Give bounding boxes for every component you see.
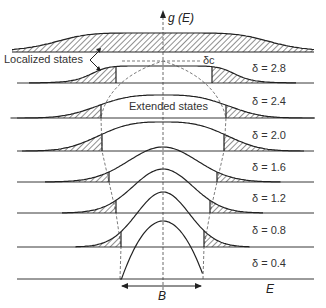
axis-label: g (E) [168,11,194,25]
dos-curve [62,169,263,213]
dos-curve [76,192,250,247]
dos-curve [120,221,203,279]
localized-pointer [90,51,99,68]
localized-tail-left [11,105,102,118]
energy-label: E [266,282,275,296]
delta-label: δ = 2.0 [252,129,286,141]
bandwidth-label: B [158,289,166,303]
critical-delta-label: δc [203,54,215,66]
delta-label: δ = 0.4 [252,257,286,269]
delta-label: δ = 2.4 [252,95,286,107]
localized-states-label: Localized states [4,53,83,65]
axis-arrow-icon [160,10,166,18]
delta-labels: δ = 2.8δ = 2.4δ = 2.0δ = 1.6δ = 1.2δ = 0… [252,62,286,270]
delta-label: δ = 1.6 [252,161,286,173]
delta-label: δ = 0.8 [252,224,286,236]
delta-label: δ = 2.8 [252,62,286,74]
delta-label: δ = 1.2 [252,192,286,204]
density-of-states-diagram: g (E) δc Localized states Extended state… [0,0,326,308]
diagram-canvas: g (E) δc Localized states Extended state… [0,0,326,308]
extended-states-label: Extended states [129,100,208,112]
